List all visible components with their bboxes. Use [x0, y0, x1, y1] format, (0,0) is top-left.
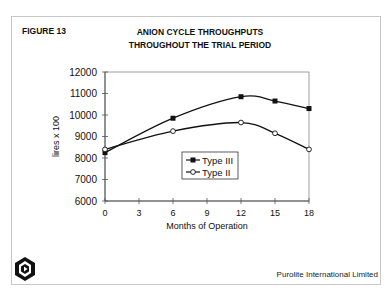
- y-tick-label: 7000: [75, 174, 98, 185]
- footer-company: Purolite International Limited: [277, 270, 378, 279]
- y-tick-label: 6000: [75, 196, 98, 207]
- line-chart: 6000700080009000100001100012000036912151…: [0, 0, 392, 295]
- chart-legend: Type IIIType II: [182, 152, 238, 179]
- y-tick-label: 10000: [69, 110, 97, 121]
- y-tick-label: 12000: [69, 67, 97, 78]
- y-tick-label: 8000: [75, 153, 98, 164]
- y-axis-label: lires x 100: [51, 116, 61, 157]
- legend-label: Type III: [202, 155, 233, 166]
- series-type-ii: [103, 120, 312, 152]
- x-tick-label: 9: [204, 208, 209, 218]
- legend-label: Type II: [202, 167, 231, 178]
- x-tick-label: 3: [136, 208, 141, 218]
- y-tick-label: 11000: [70, 88, 98, 99]
- x-tick-label: 15: [270, 208, 280, 218]
- x-tick-label: 12: [236, 208, 246, 218]
- y-tick-label: 9000: [75, 131, 98, 142]
- x-tick-label: 18: [304, 208, 314, 218]
- chart-axes: 6000700080009000100001100012000036912151…: [51, 67, 314, 232]
- x-tick-label: 0: [102, 208, 107, 218]
- x-axis-label: Months of Operation: [166, 221, 248, 231]
- chart-series: [103, 94, 312, 155]
- x-tick-label: 6: [170, 208, 175, 218]
- purolite-logo-icon: [14, 256, 36, 286]
